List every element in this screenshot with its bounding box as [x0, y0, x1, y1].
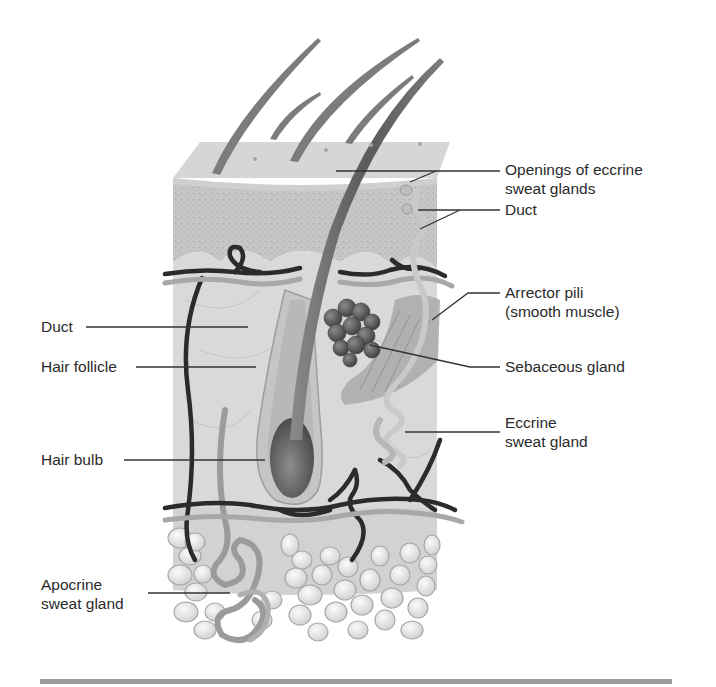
skin-anatomy-figure: Openings of eccrine sweat glands Duct Ar…: [0, 0, 716, 687]
label-apocrine-sweat-gland: Apocrine sweat gland: [41, 575, 124, 613]
label-eccrine-sweat-gland: Eccrine sweat gland: [505, 413, 588, 451]
label-line: Duct: [505, 200, 537, 219]
label-line: Sebaceous gland: [505, 357, 625, 376]
label-line: Openings of eccrine: [505, 160, 643, 179]
label-line: Eccrine: [505, 413, 588, 432]
label-line: Apocrine: [41, 575, 124, 594]
label-duct-left: Duct: [41, 317, 73, 336]
label-line: sweat gland: [505, 432, 588, 451]
label-line: sweat glands: [505, 179, 643, 198]
label-line: Hair follicle: [41, 357, 117, 376]
label-line: sweat gland: [41, 594, 124, 613]
label-line: Arrector pili: [505, 283, 620, 302]
label-hair-follicle: Hair follicle: [41, 357, 117, 376]
label-line: (smooth muscle): [505, 302, 620, 321]
label-duct-right: Duct: [505, 200, 537, 219]
label-line: Duct: [41, 317, 73, 336]
label-openings-of-eccrine-sweat-glands: Openings of eccrine sweat glands: [505, 160, 643, 198]
label-hair-bulb: Hair bulb: [41, 450, 103, 469]
label-sebaceous-gland: Sebaceous gland: [505, 357, 625, 376]
bottom-divider-rule: [40, 679, 672, 684]
label-line: Hair bulb: [41, 450, 103, 469]
label-arrector-pili: Arrector pili (smooth muscle): [505, 283, 620, 321]
